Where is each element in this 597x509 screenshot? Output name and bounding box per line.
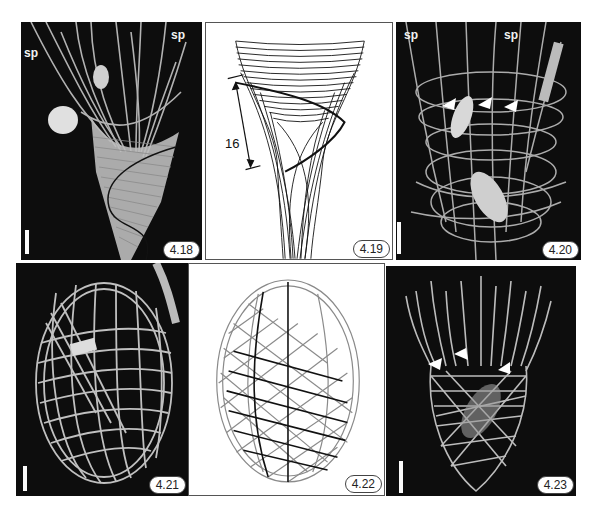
panel-4-20: sp sp 4.20	[396, 22, 581, 260]
panel-4-23: 4.23	[386, 266, 576, 496]
dimension-label: 16	[225, 136, 239, 151]
sp-annotation-left: sp	[404, 28, 418, 42]
arrowhead-icons	[428, 348, 510, 374]
figure-label-4-22: 4.22	[345, 475, 382, 493]
lorica-micrograph-4-23	[386, 266, 576, 496]
scale-bar	[25, 230, 29, 254]
lorica-drawing-4-22	[189, 264, 384, 495]
lorica-micrograph-4-21	[16, 263, 188, 496]
figure-label-4-18: 4.18	[163, 241, 200, 259]
lorica-micrograph-4-20	[396, 22, 581, 260]
scale-bar	[23, 466, 27, 491]
panel-4-18: sp sp 4.18	[21, 22, 202, 260]
figure-label-4-19: 4.19	[353, 240, 390, 258]
scale-bar	[397, 222, 401, 254]
sp-annotation-right: sp	[504, 28, 518, 42]
sp-annotation-right: sp	[171, 28, 185, 42]
sp-annotation-left: sp	[24, 46, 38, 60]
panel-4-21: 4.21	[16, 263, 188, 496]
figure-label-4-23: 4.23	[537, 476, 574, 494]
figure-label-4-20: 4.20	[542, 241, 579, 259]
panel-4-22: 4.22	[188, 263, 385, 496]
lorica-micrograph-4-18	[21, 22, 202, 260]
panel-4-19: 16 4.19	[205, 22, 393, 260]
figure-label-4-21: 4.21	[149, 476, 186, 494]
scale-bar	[399, 461, 403, 493]
